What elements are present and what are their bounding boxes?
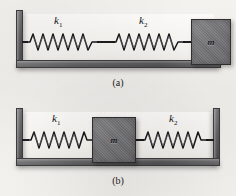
panel-b-spring-k2 — [142, 129, 208, 151]
panel-b-k2-subscript: 2 — [174, 119, 178, 127]
panel-b-mass-block: m — [92, 117, 136, 163]
panel-b-spring-k1 — [28, 129, 94, 151]
panel-a-k1-label: k1 — [54, 14, 62, 29]
panel-b-k1-subscript: 1 — [57, 119, 61, 127]
panel-a-mass-label: m — [207, 37, 214, 47]
panel-b-k2-label: k2 — [169, 112, 177, 127]
panel-b-caption: (b) — [0, 175, 236, 186]
panel-b: m k1 k2 (b) — [0, 98, 236, 196]
panel-a: m k1 k2 (a) — [0, 0, 236, 98]
panel-a-k2-label: k2 — [139, 14, 147, 29]
panel-a-left-wall — [16, 10, 23, 66]
panel-a-mass-block: m — [191, 19, 231, 65]
panel-b-mass-label: m — [110, 135, 117, 145]
panel-a-spring-k1 — [27, 31, 99, 53]
panel-b-k1-label: k1 — [52, 112, 60, 127]
panel-a-k1-subscript: 1 — [59, 21, 63, 29]
panel-a-k2-subscript: 2 — [144, 21, 148, 29]
spring-mass-figure: m k1 k2 (a) m — [0, 0, 236, 196]
panel-b-left-wall — [16, 108, 23, 164]
panel-a-caption: (a) — [0, 77, 236, 88]
panel-b-right-wall — [213, 108, 220, 164]
panel-a-spring-k2 — [113, 31, 185, 53]
